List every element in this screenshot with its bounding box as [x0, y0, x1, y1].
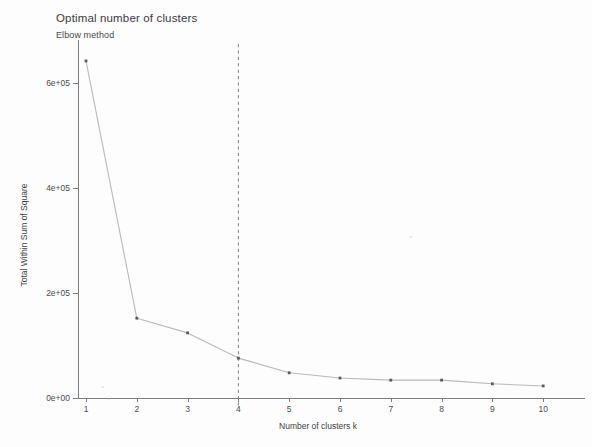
plot-area [0, 0, 592, 447]
data-point [339, 377, 342, 380]
data-point [491, 382, 494, 385]
scan-speckle [108, 398, 110, 400]
data-point [85, 60, 88, 63]
chart-canvas: Optimal number of clusters Elbow method … [0, 0, 592, 447]
scan-speckle [101, 386, 104, 388]
data-point [186, 332, 189, 335]
wss-markers [85, 60, 545, 388]
data-point [288, 371, 291, 374]
data-point [542, 385, 545, 388]
data-point [135, 317, 138, 320]
scan-speckle [409, 236, 412, 238]
data-point [440, 379, 443, 382]
data-point [237, 357, 240, 360]
data-point [389, 379, 392, 382]
wss-line [86, 61, 543, 386]
